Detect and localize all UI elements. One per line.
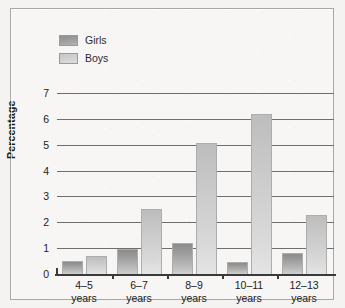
y-tick-0: 0 <box>27 268 49 280</box>
bar-girls-8-9 <box>172 243 193 274</box>
bar-girls-4-5 <box>62 261 83 274</box>
bar-boys-4-5 <box>86 256 107 274</box>
bar-group-12-13 <box>277 93 332 274</box>
y-tick-3: 3 <box>27 190 49 202</box>
legend-label-girls: Girls <box>85 35 107 46</box>
chart-page: Girls Boys Percentage 0 1 2 3 4 5 6 7 <box>0 0 345 308</box>
bar-girls-10-11 <box>227 262 248 274</box>
bar-group-4-5 <box>57 93 112 274</box>
x-category-4-5-range: 4–5 <box>75 279 93 291</box>
bar-girls-6-7 <box>117 249 138 274</box>
bar-boys-10-11 <box>251 114 272 274</box>
bar-boys-12-13 <box>306 215 327 274</box>
y-tick-1: 1 <box>27 242 49 254</box>
bar-group-6-7 <box>112 93 167 274</box>
y-tick-6: 6 <box>27 113 49 125</box>
bar-group-10-11 <box>222 93 277 274</box>
bar-boys-6-7 <box>141 209 162 274</box>
x-category-10-11-range: 10–11 <box>235 279 263 291</box>
x-category-12-13: 12–13 years <box>268 279 340 305</box>
x-axis-line <box>55 274 336 276</box>
bar-groups <box>57 93 334 274</box>
x-category-12-13-unit: years <box>268 292 340 305</box>
legend-label-boys: Boys <box>85 53 108 64</box>
bar-boys-8-9 <box>196 143 217 274</box>
y-tick-4: 4 <box>27 165 49 177</box>
y-axis-title: Percentage <box>5 100 17 159</box>
y-tick-5: 5 <box>27 139 49 151</box>
legend-swatch-boys-icon <box>59 53 78 64</box>
x-category-6-7-range: 6–7 <box>130 279 148 291</box>
y-tick-2: 2 <box>27 216 49 228</box>
bar-group-8-9 <box>167 93 222 274</box>
bar-girls-12-13 <box>282 253 303 274</box>
x-category-12-13-range: 12–13 <box>289 279 318 291</box>
y-axis-tick-labels: 0 1 2 3 4 5 6 7 <box>27 93 49 274</box>
chart-frame: Girls Boys Percentage 0 1 2 3 4 5 6 7 <box>10 8 334 300</box>
legend-item-boys: Boys <box>59 51 108 66</box>
chart-legend: Girls Boys <box>59 33 108 69</box>
legend-swatch-girls-icon <box>59 35 78 46</box>
x-category-8-9-range: 8–9 <box>185 279 203 291</box>
y-tick-7: 7 <box>27 87 49 99</box>
y-axis-line <box>56 268 58 275</box>
legend-item-girls: Girls <box>59 33 108 48</box>
